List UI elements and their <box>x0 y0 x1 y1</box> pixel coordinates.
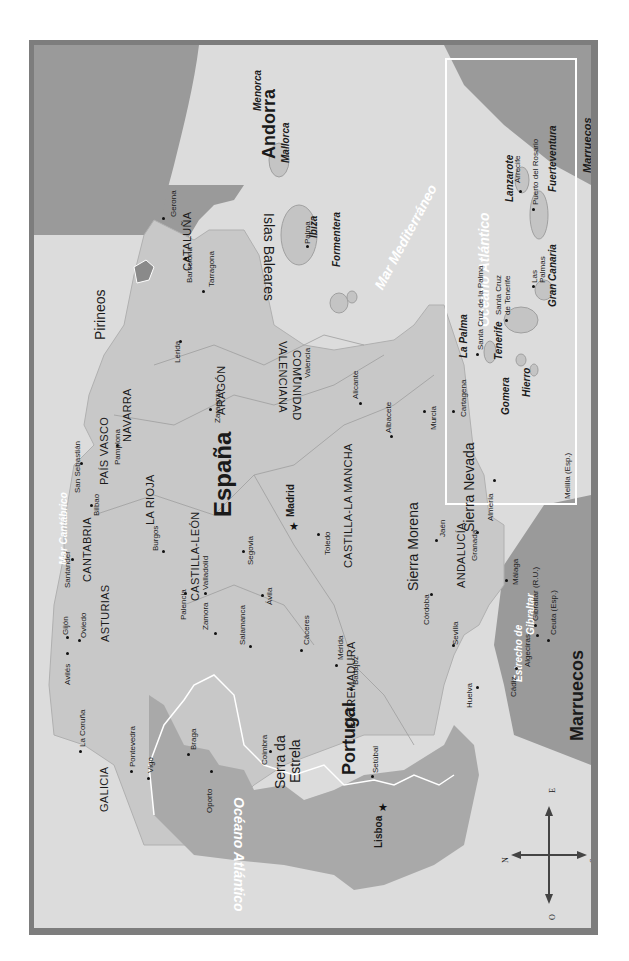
city-santa-cruz-tenerife-2: de Tenerife <box>504 276 512 315</box>
label-sierra-morena: Sierra Morena <box>406 502 420 591</box>
city-san-sebastian: San Sebastián <box>74 441 82 493</box>
formentera-shape <box>347 291 357 303</box>
region-valenciana: VALENCIANA <box>277 341 288 413</box>
city-merida: Mérida <box>337 636 345 660</box>
city-dot <box>300 649 303 652</box>
city-dot <box>505 319 508 322</box>
city-gijon: Gijón <box>62 616 70 635</box>
city-santa-cruz-palma: Santa Cruz de la Palma <box>477 266 485 351</box>
city-jaen: Jaén <box>439 520 447 537</box>
city-dot <box>66 652 69 655</box>
city-dot <box>390 435 393 438</box>
city-la-coruna: La Coruña <box>79 710 87 747</box>
map-frame: Andorra España Portugal Marruecos Marrue… <box>29 40 598 935</box>
city-cartagena: Cartagena <box>460 380 468 417</box>
label-mallorca: Mallorca <box>281 122 291 163</box>
label-fuerteventura: Fuerteventura <box>548 125 558 192</box>
city-dot <box>532 208 535 211</box>
compass-o: O <box>549 914 557 920</box>
city-avila: Ávila <box>266 588 274 605</box>
city-alicante: Alicante <box>352 371 360 399</box>
city-dot <box>130 770 133 773</box>
city-dot <box>452 410 455 413</box>
city-dot <box>162 550 165 553</box>
region-castilla-la-mancha: CASTILLA-LA MANCHA <box>343 443 354 568</box>
label-espana: España <box>211 432 235 517</box>
city-oporto: Oporto <box>206 789 214 813</box>
city-melilla: Melilla (Esp.) <box>564 453 572 499</box>
city-dot <box>147 777 150 780</box>
city-dot <box>536 634 539 637</box>
region-asturias: ASTURIAS <box>100 585 111 642</box>
city-cordoba: Córdoba <box>423 594 431 625</box>
region-castilla-leon: CASTILLA-LEÓN <box>190 512 201 601</box>
city-dot <box>78 639 81 642</box>
city-gibraltar: Gibraltar (R.U.) <box>532 567 540 621</box>
city-sevilla: Sevilla <box>452 621 460 645</box>
city-dot <box>423 410 426 413</box>
city-dot <box>335 664 338 667</box>
label-madrid: Madrid <box>286 484 296 517</box>
region-pais-vasco: PAÍS VASCO <box>99 417 110 485</box>
city-pamplona: Pamplona <box>114 429 122 465</box>
region-la-rioja: LA RIOJA <box>145 474 156 525</box>
city-oviedo: Oviedo <box>80 613 88 638</box>
label-pirineos: Pirineos <box>93 289 107 340</box>
label-gran-canaria: Gran Canaria <box>548 244 558 307</box>
city-dot <box>187 753 190 756</box>
label-marruecos-inset: Marruecos <box>582 117 591 173</box>
city-salamanca: Salamanca <box>239 605 247 645</box>
city-dot <box>202 290 205 293</box>
city-braga: Braga <box>190 729 198 750</box>
city-dot <box>261 594 264 597</box>
label-estrela: Estrela <box>288 739 302 783</box>
city-tarragona: Tarragona <box>208 251 216 287</box>
ibiza-shape <box>330 293 348 313</box>
city-santa-cruz-tenerife-1: Santa Cruz <box>495 275 503 315</box>
compass-rose-icon <box>509 800 589 910</box>
city-lerida: Lérida <box>174 341 182 363</box>
city-huelva: Huelva <box>466 683 474 708</box>
city-dot <box>476 686 479 689</box>
city-dot <box>306 245 309 248</box>
label-menorca: Menorca <box>253 70 263 111</box>
map-sea: Andorra España Portugal Marruecos Marrue… <box>34 45 591 928</box>
region-andalucia: ANDALUCÍA <box>456 522 467 588</box>
city-toledo: Toledo <box>324 531 332 555</box>
label-tenerife: Tenerife <box>494 321 504 360</box>
city-dot <box>534 624 537 627</box>
city-las-palmas-2: Palmas <box>539 256 547 283</box>
city-gerona: Gerona <box>170 190 178 217</box>
region-galicia: GALICIA <box>99 766 110 812</box>
city-valencia: Valencia <box>304 348 312 378</box>
label-sierra-nevada: Sierra Nevada <box>462 443 476 533</box>
city-dot <box>435 539 438 542</box>
city-ceuta: Ceuta (Esp.) <box>550 590 558 635</box>
city-dot <box>249 645 252 648</box>
city-dot <box>242 550 245 553</box>
city-zamora: Zamora <box>202 602 210 630</box>
city-barcelona: Barcelona <box>186 247 194 283</box>
city-dot <box>317 533 320 536</box>
city-dot <box>162 217 165 220</box>
city-dot <box>493 479 496 482</box>
region-comunidad: COMUNIDAD <box>291 350 302 421</box>
label-oceano-atlantico: Océano Atlántico <box>232 797 246 912</box>
city-caceres: Cáceres <box>303 615 311 645</box>
city-dot <box>476 353 479 356</box>
region-extremadura: EXTREMADURA <box>346 641 357 729</box>
city-dot <box>505 579 508 582</box>
city-puerto-rosario: Puerto del Rosario <box>532 139 540 205</box>
city-dot <box>299 377 302 380</box>
compass-n: N <box>502 857 510 863</box>
city-murcia: Murcia <box>430 406 438 430</box>
region-navarra: NAVARRA <box>122 388 133 442</box>
city-palencia: Palencia <box>180 589 188 620</box>
region-cantabria: CANTABRIA <box>82 517 93 582</box>
city-badajoz: Badajoz <box>352 656 360 685</box>
label-la-palma: La Palma <box>459 314 469 358</box>
city-dot <box>214 632 217 635</box>
city-aviles: Avilés <box>64 664 72 685</box>
city-dot <box>209 408 212 411</box>
city-zaragoza: Zaragoza <box>214 389 222 423</box>
